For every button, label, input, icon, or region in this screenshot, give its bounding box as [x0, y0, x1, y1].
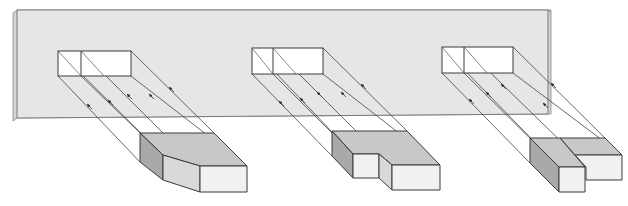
projection-image-1: [58, 51, 131, 76]
solid-1: [140, 133, 247, 192]
projection-image-2: [252, 48, 323, 74]
orthographic-projection-diagram: [0, 0, 628, 206]
projection-image-3: [442, 47, 513, 73]
solid-2: [332, 131, 440, 190]
solid-3: [530, 138, 622, 192]
